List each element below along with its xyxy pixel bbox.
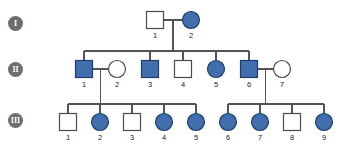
individual-label-III-3: 3 [122, 134, 142, 142]
individual-label-II-2: 2 [107, 81, 127, 89]
individual-III-9-female-affected[interactable] [316, 114, 333, 131]
individual-III-2-female-affected[interactable] [92, 114, 109, 131]
individual-label-II-3: 3 [140, 81, 160, 89]
individual-label-I-2: 2 [181, 32, 201, 40]
individual-label-III-9: 9 [314, 134, 334, 142]
individual-III-5-female-affected[interactable] [188, 114, 205, 131]
individual-III-1-male-unaffected[interactable] [60, 114, 77, 131]
individual-label-II-4: 4 [173, 81, 193, 89]
individual-label-II-5: 5 [206, 81, 226, 89]
individual-III-8-male-unaffected[interactable] [284, 114, 301, 131]
individual-label-II-6: 6 [239, 81, 259, 89]
individual-label-II-1: 1 [74, 81, 94, 89]
individual-label-III-5: 5 [186, 134, 206, 142]
individual-II-5-female-affected[interactable] [208, 61, 225, 78]
individual-III-6-female-affected[interactable] [220, 114, 237, 131]
individual-II-4-male-unaffected[interactable] [175, 61, 192, 78]
individual-II-1-male-affected[interactable] [76, 61, 93, 78]
individual-label-III-2: 2 [90, 134, 110, 142]
individual-II-3-male-affected[interactable] [142, 61, 159, 78]
individual-label-II-7: 7 [272, 81, 292, 89]
generation-2-badge: II [8, 62, 23, 77]
individual-label-I-1: 1 [145, 32, 165, 40]
individual-label-III-4: 4 [154, 134, 174, 142]
generation-1-badge: I [8, 16, 23, 31]
generation-3-badge: III [8, 113, 23, 128]
individual-II-6-male-affected[interactable] [241, 61, 258, 78]
individual-I-1-male-unaffected[interactable] [147, 12, 164, 29]
individual-III-7-female-affected[interactable] [252, 114, 269, 131]
individual-II-7-female-unaffected[interactable] [274, 61, 291, 78]
individual-label-III-7: 7 [250, 134, 270, 142]
pedigree-diagram [0, 0, 351, 148]
individual-I-2-female-affected[interactable] [183, 12, 200, 29]
individual-label-III-1: 1 [58, 134, 78, 142]
individual-III-4-female-affected[interactable] [156, 114, 173, 131]
individual-III-3-male-unaffected[interactable] [124, 114, 141, 131]
individual-II-2-female-unaffected[interactable] [109, 61, 126, 78]
individual-label-III-6: 6 [218, 134, 238, 142]
individual-label-III-8: 8 [282, 134, 302, 142]
